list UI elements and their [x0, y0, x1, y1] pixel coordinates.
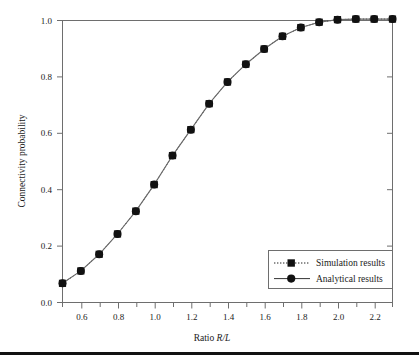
connectivity-probability-line-chart: 0.0 0.2 0.4 0.6 0.8 1.0: [0, 0, 419, 364]
y-tick-label-0: 0.0: [41, 298, 53, 308]
x-tick-label-2: 1.0: [150, 312, 162, 322]
circle-marker-icon: [242, 60, 250, 68]
y-tick-label-5: 1.0: [41, 16, 53, 26]
x-tick-label-7: 2.0: [333, 312, 345, 322]
circle-marker-icon: [352, 15, 360, 23]
series-simulation-results: [59, 15, 396, 286]
y-tick-label-2: 0.4: [41, 185, 53, 195]
legend-label-simulation-results: Simulation results: [316, 258, 385, 268]
figure-container: 0.0 0.2 0.4 0.6 0.8 1.0: [0, 0, 419, 364]
y-axis-title: Connectivity probability: [17, 114, 27, 207]
circle-marker-icon: [315, 18, 323, 26]
x-axis-minor-ticks: [63, 303, 393, 308]
legend-entry-analytical-results: Analytical results: [274, 274, 383, 284]
circle-marker-icon: [297, 24, 305, 32]
data-series-layer: [59, 15, 397, 287]
x-tick-label-6: 1.8: [296, 312, 308, 322]
x-tick-label-1: 0.8: [113, 312, 125, 322]
circle-marker-icon: [95, 250, 103, 258]
legend: Simulation results Analytical results: [269, 251, 393, 289]
legend-label-analytical-results: Analytical results: [316, 274, 383, 284]
x-tick-label-3: 1.2: [186, 312, 197, 322]
circle-marker-icon: [287, 275, 295, 283]
x-axis-major-ticks: [82, 303, 375, 309]
circle-marker-icon: [132, 207, 140, 215]
circle-marker-icon: [334, 16, 342, 24]
circle-marker-icon: [389, 15, 397, 23]
series-line: [63, 19, 393, 283]
square-marker-icon: [288, 259, 295, 266]
circle-marker-icon: [150, 181, 158, 189]
series-analytical-results: [59, 15, 397, 287]
circle-marker-icon: [169, 152, 177, 160]
y-tick-label-1: 0.2: [41, 241, 52, 251]
x-tick-label-0: 0.6: [76, 312, 88, 322]
circle-marker-icon: [224, 78, 232, 86]
x-axis-title: Ratio R/L: [194, 333, 231, 343]
circle-marker-icon: [370, 15, 378, 23]
y-tick-label-3: 0.6: [41, 128, 53, 138]
circle-marker-icon: [187, 126, 195, 134]
y-tick-label-4: 0.8: [41, 72, 53, 82]
series-line: [63, 19, 393, 283]
x-axis-title-prefix: Ratio: [194, 333, 217, 343]
x-tick-label-5: 1.6: [260, 312, 272, 322]
circle-marker-icon: [114, 230, 122, 238]
y-axis-ticks: [57, 21, 63, 303]
y-axis-right-ticks: [387, 77, 393, 246]
circle-marker-icon: [205, 100, 213, 108]
circle-marker-icon: [59, 279, 67, 287]
circle-marker-icon: [260, 45, 268, 53]
footer-divider: [0, 352, 419, 355]
circle-marker-icon: [77, 267, 85, 275]
x-axis-title-italic: R/L: [216, 333, 231, 343]
x-tick-label-8: 2.2: [370, 312, 381, 322]
x-tick-label-4: 1.4: [223, 312, 235, 322]
circle-marker-icon: [279, 32, 287, 40]
